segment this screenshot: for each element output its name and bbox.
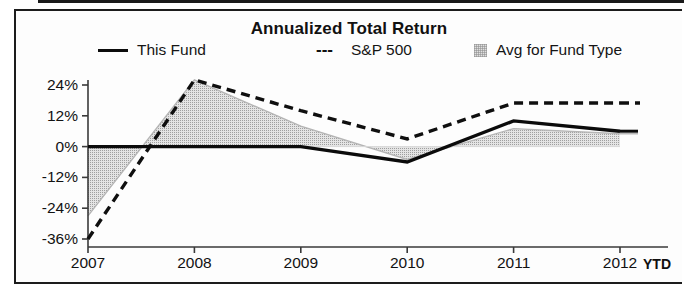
- legend-item-sp-500: --- S&P 500: [316, 41, 412, 59]
- annualized-total-return-chart: Annualized Total Return This Fund --- S&…: [14, 9, 682, 284]
- legend-item-avg-fund-type: Avg for Fund Type: [474, 41, 622, 59]
- area-swatch-icon: [474, 44, 487, 57]
- page-top-rule-gap: [38, 3, 684, 5]
- legend-item-this-fund: This Fund: [98, 41, 206, 59]
- dashed-line-swatch-icon: ---: [316, 45, 342, 55]
- chart-legend: This Fund --- S&P 500 Avg for Fund Type: [16, 41, 682, 63]
- legend-label-this-fund: This Fund: [137, 41, 206, 59]
- legend-label-avg-fund-type: Avg for Fund Type: [496, 41, 622, 59]
- legend-label-sp-500: S&P 500: [351, 41, 412, 59]
- chart-title: Annualized Total Return: [16, 19, 682, 39]
- solid-line-swatch-icon: [98, 49, 128, 52]
